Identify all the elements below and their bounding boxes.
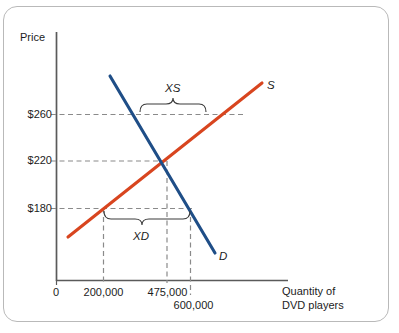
y-tick-label-260: $260 [8,108,52,121]
y-tick-label-220: $220 [8,154,52,167]
excess-demand-label: XD [133,230,149,243]
x-tick-label-600000: 600,000 [160,299,227,312]
demand-curve-label: D [219,250,227,263]
supply-curve [68,83,262,237]
x-axis-title-line2: DVD players [282,299,344,312]
x-tick-label-200000: 200,000 [70,286,137,299]
excess-demand-brace [104,211,190,225]
x-tick-label-475000: 475,000 [134,286,201,299]
excess-supply-brace [140,98,206,112]
y-tick-label-180: $180 [8,202,52,215]
excess-supply-label: XS [165,82,180,95]
x-axis-title-line1: Quantity of [282,285,335,298]
supply-curve-label: S [267,79,275,92]
y-axis-title: Price [20,31,45,44]
demand-curve [110,76,215,253]
x-tick-label-0: 0 [44,286,68,299]
chart-figure: Price $260 $220 $180 0 200,000 475,000 6… [0,0,399,333]
supply-demand-plot [0,0,399,333]
